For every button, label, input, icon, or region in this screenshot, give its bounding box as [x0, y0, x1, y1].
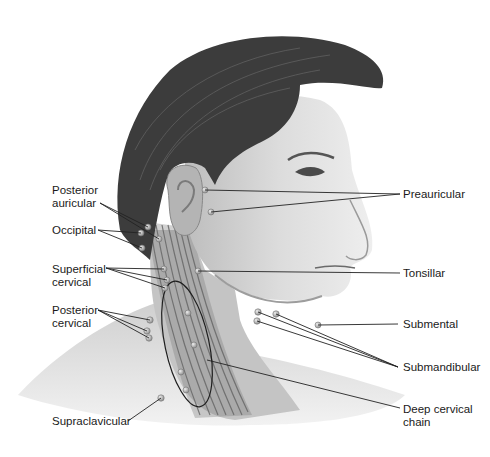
label-supraclavicular: Supraclavicular — [52, 415, 131, 428]
label-occipital: Occipital — [52, 224, 96, 237]
label-preauricular: Preauricular — [403, 188, 465, 201]
label-superficial-cervical: Superficial cervical — [52, 263, 106, 289]
label-submental: Submental — [403, 318, 458, 331]
label-posterior-cervical: Posterior cervical — [52, 304, 98, 330]
lymph-node-diagram: Posterior auricular Occipital Superficia… — [0, 0, 490, 457]
label-submandibular: Submandibular — [403, 361, 480, 374]
label-tonsillar: Tonsillar — [403, 267, 445, 280]
label-deep-cervical-chain: Deep cervical chain — [403, 403, 473, 429]
label-posterior-auricular: Posterior auricular — [52, 184, 98, 210]
